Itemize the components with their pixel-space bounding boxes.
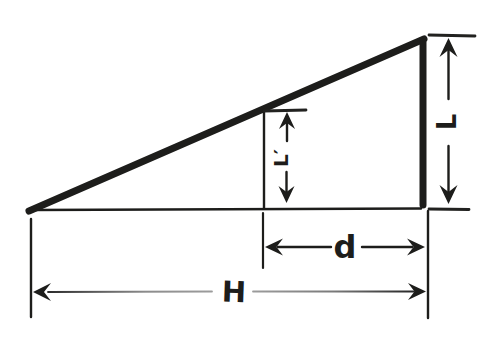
label-d: d: [334, 228, 357, 266]
dimension-H: H: [31, 219, 426, 317]
triangle: [29, 39, 424, 211]
label-L-prime: L′: [269, 149, 293, 167]
dimension-d: d: [263, 211, 428, 318]
dimension-L: L: [429, 35, 475, 210]
hypotenuse-tick-line: [264, 110, 306, 111]
hypotenuse-line: [29, 39, 424, 211]
diagram-canvas: L L′ d: [0, 0, 489, 347]
h-dim-line-left: [48, 292, 212, 293]
l-dim-top-extension-line: [429, 35, 475, 36]
l-dim-bottom-extension-line: [429, 209, 469, 210]
label-L: L: [432, 114, 462, 131]
triangle-diagram: L L′ d: [0, 0, 489, 347]
label-H: H: [221, 275, 246, 310]
dimension-L-prime: L′: [269, 112, 295, 203]
base-line: [33, 209, 421, 211]
